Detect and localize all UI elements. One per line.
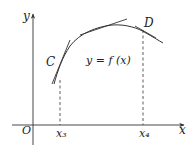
point-label-d: D — [143, 16, 154, 30]
point-label-c: C — [46, 55, 55, 69]
tick-label-x4: x₄ — [139, 127, 150, 140]
tick-label-x3: x₃ — [56, 127, 67, 140]
tangent-line-peak — [80, 19, 127, 35]
curve-label: y = f (x) — [85, 54, 131, 67]
x-axis-label: x — [179, 123, 186, 137]
function-tangent-diagram: y x O x₃ x₄ C D y = f (x) — [0, 0, 194, 153]
origin-label: O — [22, 124, 31, 137]
y-axis-label: y — [22, 9, 30, 23]
